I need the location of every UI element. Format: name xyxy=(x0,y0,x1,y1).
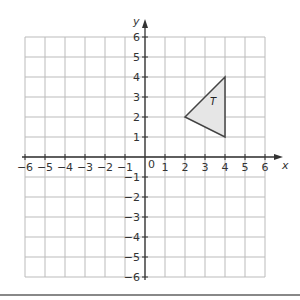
x-axis-label: x xyxy=(281,159,289,172)
svg-text:5: 5 xyxy=(133,51,140,64)
svg-text:−5: −5 xyxy=(124,251,140,264)
svg-text:4: 4 xyxy=(222,161,229,174)
svg-text:−5: −5 xyxy=(37,161,53,174)
coordinate-grid: −6−5−4−3−2−1123456654321−1−2−3−4−5−6 T x… xyxy=(0,0,300,300)
svg-text:−2: −2 xyxy=(97,161,113,174)
svg-text:−3: −3 xyxy=(124,211,140,224)
svg-text:−4: −4 xyxy=(57,161,73,174)
svg-text:1: 1 xyxy=(133,131,140,144)
svg-text:3: 3 xyxy=(202,161,209,174)
svg-text:1: 1 xyxy=(162,161,169,174)
triangle-label: T xyxy=(210,96,217,107)
svg-text:4: 4 xyxy=(133,71,140,84)
svg-text:2: 2 xyxy=(182,161,189,174)
svg-text:−1: −1 xyxy=(124,171,140,184)
svg-text:6: 6 xyxy=(262,161,269,174)
axes xyxy=(22,19,283,280)
svg-text:3: 3 xyxy=(133,91,140,104)
y-axis-label: y xyxy=(132,15,140,28)
origin-label: 0 xyxy=(148,158,155,171)
svg-text:−4: −4 xyxy=(124,231,140,244)
svg-text:−6: −6 xyxy=(17,161,33,174)
svg-text:2: 2 xyxy=(133,111,140,124)
svg-text:6: 6 xyxy=(133,31,140,44)
svg-text:−6: −6 xyxy=(124,271,140,284)
svg-text:5: 5 xyxy=(242,161,249,174)
svg-text:−2: −2 xyxy=(124,191,140,204)
svg-text:−3: −3 xyxy=(77,161,93,174)
